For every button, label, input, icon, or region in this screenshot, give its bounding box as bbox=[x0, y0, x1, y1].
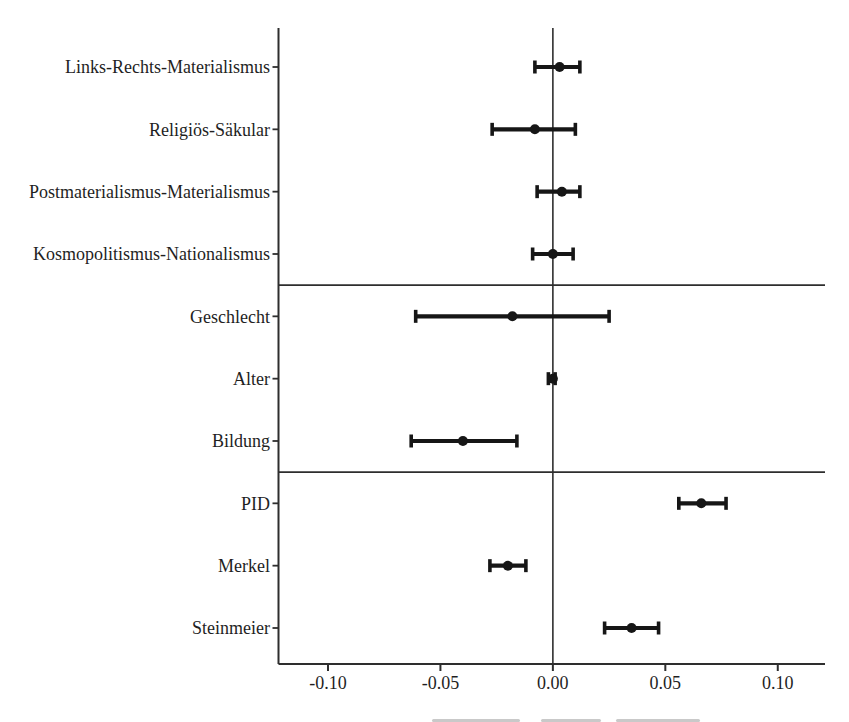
point-estimate-dot bbox=[696, 498, 706, 508]
point-estimate-dot bbox=[503, 561, 513, 571]
category-label: Steinmeier bbox=[192, 618, 270, 638]
x-tick-label: 0.00 bbox=[537, 673, 569, 693]
category-label: Links-Rechts-Materialismus bbox=[65, 57, 270, 77]
category-label: Kosmopolitismus-Nationalismus bbox=[33, 244, 270, 264]
category-label: Religiös-Säkular bbox=[149, 120, 270, 140]
x-tick-label: -0.10 bbox=[309, 673, 347, 693]
x-tick-label: 0.05 bbox=[650, 673, 682, 693]
point-estimate-dot bbox=[557, 187, 567, 197]
category-label: Bildung bbox=[212, 431, 270, 451]
category-label: PID bbox=[241, 494, 270, 514]
point-estimate-dot bbox=[507, 311, 517, 321]
category-label: Postmaterialismus-Materialismus bbox=[29, 182, 270, 202]
point-estimate-dot bbox=[548, 374, 558, 384]
forest-chart-canvas: Links-Rechts-MaterialismusReligiös-Säkul… bbox=[0, 0, 849, 722]
point-estimate-dot bbox=[555, 62, 565, 72]
category-label: Geschlecht bbox=[190, 307, 270, 327]
point-estimate-dot bbox=[548, 249, 558, 259]
coefficient-forest-plot: Links-Rechts-MaterialismusReligiös-Säkul… bbox=[0, 0, 849, 722]
point-estimate-dot bbox=[530, 124, 540, 134]
x-tick-label: 0.10 bbox=[762, 673, 794, 693]
point-estimate-dot bbox=[627, 623, 637, 633]
point-estimate-dot bbox=[458, 436, 468, 446]
x-tick-label: -0.05 bbox=[422, 673, 460, 693]
category-label: Alter bbox=[233, 369, 270, 389]
category-label: Merkel bbox=[218, 556, 270, 576]
